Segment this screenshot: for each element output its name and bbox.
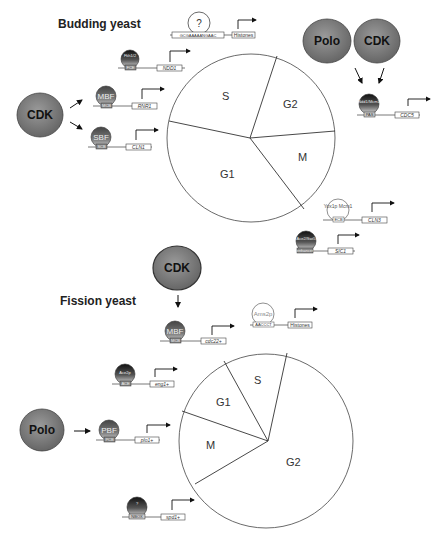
- svg-text:Ndd1/Mcm1: Ndd1/Mcm1: [358, 99, 380, 104]
- svg-text:CDK: CDK: [27, 108, 53, 122]
- svg-text:SBF: SBF: [93, 133, 109, 142]
- fission-cell-cycle-pie: S G1 M G2: [179, 353, 353, 528]
- fission-polo-kinase: Polo: [20, 409, 64, 451]
- budding-ndd1-promoter: Fkh1/2 FCE NDD1: [118, 50, 190, 71]
- phase-label-m: M: [206, 439, 215, 451]
- svg-text:PBF: PBF: [101, 426, 117, 435]
- svg-text:SIC1: SIC1: [335, 248, 346, 254]
- svg-text:AACCCT: AACCCT: [255, 322, 272, 327]
- diagram-canvas: S G2 M G1 CDK Polo CDK ? GCGAAAAANGAAC H…: [0, 0, 447, 538]
- svg-text:PCB: PCB: [105, 437, 114, 442]
- svg-text:FCE: FCE: [127, 65, 135, 70]
- svg-text:eng1+: eng1+: [155, 381, 169, 387]
- fission-plo1-promoter: PBF PCB plo1+: [96, 420, 170, 443]
- budding-cell-cycle-pie: S G2 M G1: [167, 54, 335, 222]
- svg-text:CDK: CDK: [364, 34, 390, 48]
- svg-text:Yox1p Mcm1: Yox1p Mcm1: [324, 203, 353, 209]
- svg-text:CLN3: CLN3: [368, 217, 381, 223]
- phase-label-s: S: [222, 90, 229, 102]
- svg-text:PAS: PAS: [366, 112, 374, 117]
- fission-histones-promoter: Ams2p AACCCT Histones: [250, 303, 317, 328]
- svg-text:CDK: CDK: [164, 261, 190, 275]
- svg-text:spd1+: spd1+: [166, 514, 180, 520]
- svg-text:MBF: MBF: [98, 92, 115, 101]
- svg-text:GCGAAAAANGAAC: GCGAAAAANGAAC: [180, 33, 217, 38]
- fission-cdk-kinase: CDK: [153, 246, 201, 290]
- phase-label-g2: G2: [286, 456, 301, 468]
- budding-cdk-kinase: CDK: [17, 93, 63, 137]
- budding-cdc5-promoter: Ndd1/Mcm1 PAS CDC5: [357, 94, 430, 118]
- budding-histones-promoter: ? GCGAAAAANGAAC Histones: [170, 12, 256, 38]
- svg-text:MBF: MBF: [167, 327, 184, 336]
- budding-cln1-promoter: SBF SCB CLN1: [88, 127, 158, 150]
- fission-eng1-promoter: Ace2p ACE eng1+: [112, 364, 177, 387]
- arrow-cdk-to-sbf: [70, 122, 82, 129]
- phase-label-g1: G1: [220, 168, 235, 180]
- fission-cdc22-promoter: MBF MCB cdc22+: [160, 321, 234, 344]
- phase-label-g1: G1: [216, 396, 231, 408]
- budding-yeast-title: Budding yeast: [58, 17, 141, 31]
- svg-text:Histones: Histones: [290, 322, 310, 328]
- phase-label-s: S: [254, 374, 261, 386]
- budding-rnr1-promoter: MBF MCB RNR1: [93, 86, 164, 109]
- svg-text:Ace2p: Ace2p: [119, 370, 131, 375]
- svg-text:enhancer: enhancer: [297, 248, 314, 253]
- svg-text:cdc22+: cdc22+: [205, 338, 221, 344]
- budding-sic1-promoter: Ace2/Swi5 enhancer SIC1: [296, 231, 359, 254]
- svg-text:Polo: Polo: [314, 34, 340, 48]
- svg-text:Histones: Histones: [234, 32, 254, 38]
- svg-text:Ams2p: Ams2p: [254, 311, 273, 317]
- svg-text:CDC5: CDC5: [400, 112, 414, 118]
- svg-text:NDD1: NDD1: [163, 65, 177, 71]
- svg-text:MCB: MCB: [171, 338, 180, 343]
- phase-label-m: M: [298, 151, 307, 163]
- svg-text:SCB: SCB: [97, 144, 106, 149]
- budding-cdk-kinase-right: CDK: [354, 19, 400, 63]
- svg-text:Ace2/Swi5: Ace2/Swi5: [297, 236, 317, 241]
- fission-spd1-promoter: ? NBOX spd1+: [122, 497, 194, 520]
- svg-text:Fkh1/2: Fkh1/2: [124, 53, 137, 58]
- svg-text:RNR1: RNR1: [138, 103, 152, 109]
- svg-text:ECB: ECB: [334, 217, 343, 222]
- budding-cln3-promoter: Yox1p Mcm1 ECB CLN3: [323, 199, 394, 223]
- svg-text:Polo: Polo: [29, 423, 55, 437]
- svg-text:NBOX: NBOX: [131, 514, 143, 519]
- svg-text:?: ?: [196, 18, 202, 29]
- budding-polo-kinase: Polo: [303, 19, 351, 63]
- arrow-polo-to-ndd1: [355, 68, 362, 83]
- svg-text:MCB: MCB: [102, 103, 111, 108]
- svg-text:ACE: ACE: [121, 381, 130, 386]
- arrow-cdk-to-mbf: [70, 100, 82, 108]
- fission-yeast-title: Fission yeast: [60, 294, 136, 308]
- svg-text:plo1+: plo1+: [140, 437, 153, 443]
- phase-label-g2: G2: [283, 98, 298, 110]
- arrow-cdk-to-ndd1: [379, 68, 384, 83]
- svg-text:CLN1: CLN1: [132, 144, 145, 150]
